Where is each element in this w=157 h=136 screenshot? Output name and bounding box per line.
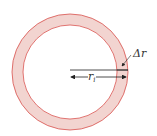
ring-diagram: Δr ri (0, 0, 157, 136)
ri-label: ri (88, 70, 96, 84)
outer-ring (18, 20, 123, 125)
inner-edge (23, 25, 117, 119)
delta-r-label: Δr (132, 47, 147, 60)
